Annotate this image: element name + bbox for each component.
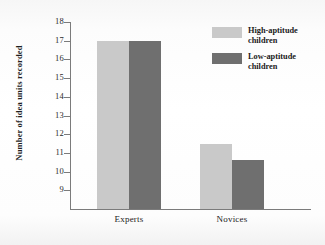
- chart-legend: High-aptitude childrenLow-aptitude child…: [212, 26, 320, 77]
- bar-chart-figure: Number of idea units recorded 1817161514…: [0, 0, 325, 245]
- y-axis-tick-label-wrap: 9: [32, 185, 64, 195]
- y-axis-tick-label: 18: [38, 17, 64, 26]
- y-axis-tick-label: 10: [38, 167, 64, 176]
- y-axis-tick-label: 17: [38, 36, 64, 45]
- legend-item: High-aptitude children: [212, 26, 320, 47]
- y-axis-tick-label: 9: [38, 185, 64, 194]
- y-axis-tick-label-wrap: 11: [32, 148, 64, 158]
- y-axis-tick-label: 15: [38, 73, 64, 82]
- x-axis-label-novices: Novices: [192, 214, 272, 224]
- y-axis-tick-label: 11: [38, 148, 64, 157]
- y-axis-tick-label: 12: [38, 129, 64, 138]
- y-axis-tick-label-wrap: 15: [32, 73, 64, 83]
- bar-high-aptitude-novices: [200, 144, 232, 209]
- y-axis-tick-label-wrap: 12: [32, 129, 64, 139]
- legend-swatch: [212, 53, 242, 64]
- y-axis-tick-label-wrap: 17: [32, 36, 64, 46]
- y-axis-tick-label-wrap: 10: [32, 167, 64, 177]
- y-axis-tick-label-wrap: 14: [32, 92, 64, 102]
- bar-high-aptitude-experts: [97, 41, 129, 209]
- legend-item: Low-aptitude children: [212, 52, 320, 73]
- bar-low-aptitude-novices: [232, 160, 264, 209]
- legend-swatch: [212, 27, 242, 38]
- y-axis-tick-label-wrap: 16: [32, 54, 64, 64]
- legend-label: Low-aptitude children: [248, 52, 314, 73]
- y-axis-tick-label-wrap: 18: [32, 17, 64, 27]
- y-axis-tick-label: 14: [38, 92, 64, 101]
- y-axis-tick-label: 16: [38, 54, 64, 63]
- y-axis-tick-label: 13: [38, 111, 64, 120]
- bar-low-aptitude-experts: [129, 41, 161, 209]
- y-axis-title: Number of idea units recorded: [14, 18, 24, 188]
- x-axis-label-experts: Experts: [89, 214, 169, 224]
- legend-label: High-aptitude children: [248, 26, 314, 47]
- y-axis-tick-label-wrap: 13: [32, 111, 64, 121]
- x-axis-line: [70, 209, 311, 210]
